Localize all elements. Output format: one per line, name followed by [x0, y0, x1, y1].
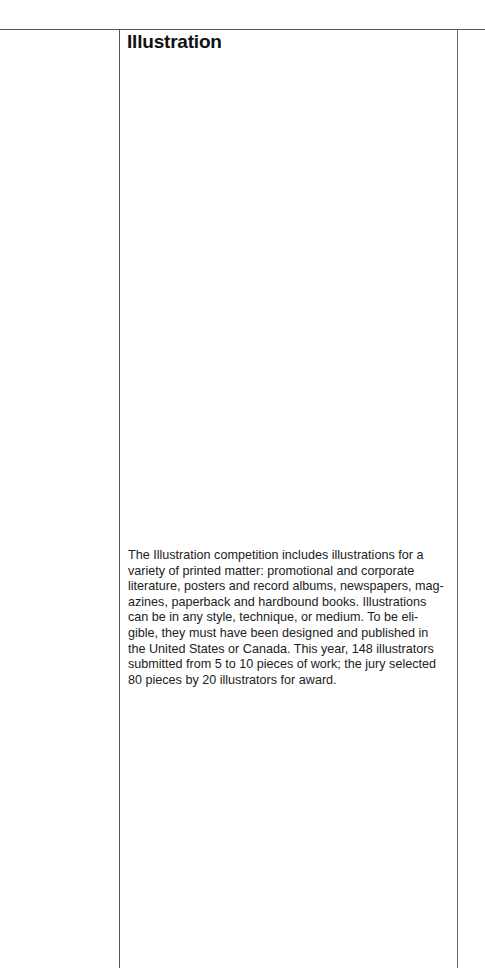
section-description: The Illustration competition includes il… [128, 548, 458, 688]
left-column-rule [119, 29, 120, 968]
right-column-rule [457, 29, 458, 968]
top-rule [0, 29, 485, 30]
section-title: Illustration [127, 31, 222, 53]
